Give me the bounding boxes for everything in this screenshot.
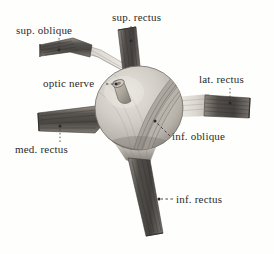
label-inf-rectus: inf. rectus	[176, 194, 222, 205]
anatomical-figure: sup. oblique sup. rectus optic nerve lat…	[0, 0, 274, 254]
label-med-rectus: med. rectus	[15, 144, 68, 155]
eye-muscle-illustration	[0, 0, 274, 254]
label-sup-rectus: sup. rectus	[112, 12, 161, 23]
structure-lat-rectus	[176, 94, 250, 118]
label-optic-nerve: optic nerve	[43, 78, 94, 89]
label-lat-rectus: lat. rectus	[199, 74, 244, 85]
label-sup-oblique: sup. oblique	[16, 25, 72, 36]
label-inf-oblique: inf. oblique	[172, 131, 225, 142]
